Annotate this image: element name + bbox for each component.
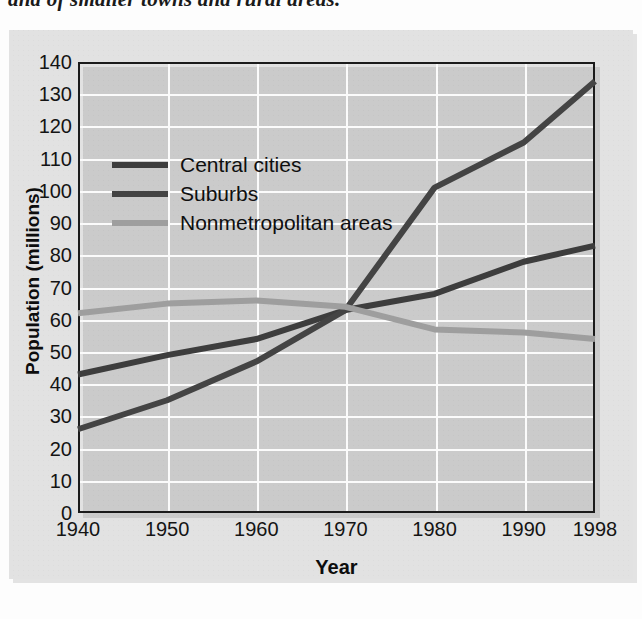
legend-item: Nonmetropolitan areas — [112, 208, 392, 237]
legend-item: Central cities — [112, 150, 392, 179]
y-axis-tick-label: 130 — [16, 84, 72, 104]
y-axis-tick-label: 20 — [16, 439, 72, 459]
y-axis-tick-label: 30 — [16, 406, 72, 426]
legend-item-label: Nonmetropolitan areas — [180, 211, 392, 235]
x-axis-tick-label: 1980 — [400, 519, 470, 539]
legend-item: Suburbs — [112, 179, 392, 208]
series-line — [78, 300, 595, 339]
y-axis-title: Population (millions) — [22, 156, 44, 406]
y-axis-tick-label: 10 — [16, 471, 72, 491]
legend-color-swatch — [112, 191, 168, 197]
x-axis-title: Year — [78, 556, 595, 579]
legend-item-label: Central cities — [180, 153, 301, 177]
series-lines — [78, 62, 595, 513]
x-axis-tick-label: 1960 — [221, 519, 291, 539]
x-axis-tick-label: 1998 — [560, 519, 630, 539]
legend-color-swatch — [112, 220, 168, 226]
x-axis-tick-label: 1950 — [132, 519, 202, 539]
x-axis-tick-label: 1940 — [43, 519, 113, 539]
figure-caption-strip: and of smaller towns and rural areas. — [0, 0, 642, 18]
y-axis-tick-label: 140 — [16, 52, 72, 72]
x-axis-tick-label: 1990 — [489, 519, 559, 539]
chart-legend: Central citiesSuburbsNonmetropolitan are… — [112, 150, 392, 237]
legend-color-swatch — [112, 162, 168, 168]
x-axis-tick-label: 1970 — [310, 519, 380, 539]
y-axis-tick-label: 120 — [16, 116, 72, 136]
series-line — [78, 246, 595, 375]
series-line — [78, 81, 595, 429]
legend-item-label: Suburbs — [180, 182, 258, 206]
